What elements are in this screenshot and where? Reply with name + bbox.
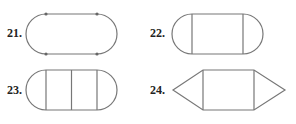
figures-canvas bbox=[0, 0, 296, 124]
figure-24-rect-triangles bbox=[173, 70, 285, 110]
vertex-point bbox=[95, 12, 98, 15]
figure-23-stadium-two-rects bbox=[26, 70, 117, 110]
vertex-point bbox=[44, 52, 47, 55]
vertex-point bbox=[44, 12, 47, 15]
figure-22-stadium-rect bbox=[172, 14, 263, 54]
figure-21-stadium bbox=[26, 12, 117, 55]
vertex-point bbox=[95, 52, 98, 55]
